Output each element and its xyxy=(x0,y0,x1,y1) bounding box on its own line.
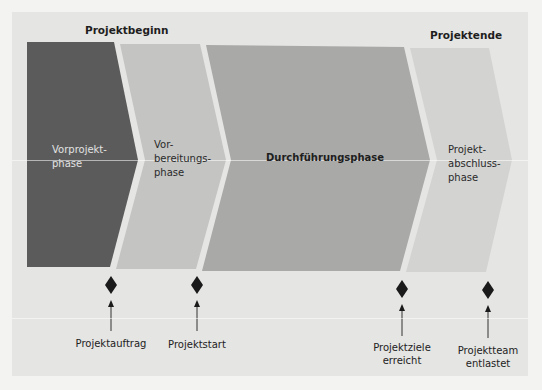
milestone-projektziele-label: Projektziele erreicht xyxy=(362,341,442,367)
header-projektbeginn: Projektbeginn xyxy=(85,24,169,36)
arrow-up-icon xyxy=(399,304,405,311)
phase-abschluss-label: Projekt- abschluss- phase xyxy=(448,143,501,185)
phase-vorprojekt-label: Vorprojekt- phase xyxy=(52,143,107,171)
milestone-projektteam-marker xyxy=(482,281,494,338)
milestone-projektteam-label: Projektteam entlastet xyxy=(448,344,528,370)
arrow-up-icon xyxy=(108,300,114,307)
divider-line xyxy=(12,318,528,319)
milestone-projektauftrag-marker xyxy=(105,276,117,331)
diamond-icon xyxy=(105,276,117,294)
milestone-projektstart-label: Projektstart xyxy=(162,338,232,351)
arrow-up-icon xyxy=(194,300,200,307)
arrow-up-icon xyxy=(485,305,491,312)
milestone-projektziele-marker xyxy=(396,280,408,336)
diamond-icon xyxy=(482,281,494,299)
diamond-icon xyxy=(191,276,203,294)
header-projektende: Projektende xyxy=(430,29,502,41)
phase-chevrons xyxy=(0,0,542,390)
milestone-projektstart-marker xyxy=(191,276,203,331)
diamond-icon xyxy=(396,280,408,298)
phase-vorbereitung-label: Vor- bereitungs- phase xyxy=(154,138,211,180)
phase-durchfuehrung-label: Durchführungsphase xyxy=(266,151,384,165)
milestone-projektauftrag-label: Projektauftrag xyxy=(71,337,151,350)
